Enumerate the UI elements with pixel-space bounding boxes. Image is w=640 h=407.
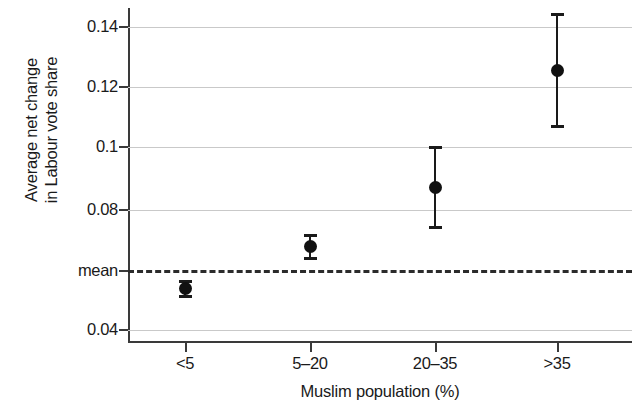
y-axis-line — [128, 8, 130, 343]
error-bar-cap-upper-3 — [551, 13, 564, 16]
y-tick-mark-0.1 — [119, 146, 128, 148]
gridline-0.1 — [128, 147, 632, 148]
plot-area — [128, 8, 632, 343]
chart-figure: Average net change in Labour vote share … — [0, 0, 640, 407]
x-tick-mark-2 — [435, 343, 437, 352]
y-axis-title-line-1: Average net change — [21, 57, 41, 203]
y-tick-label-0.14: 0.14 — [62, 18, 118, 35]
x-tick-label-1: 5–20 — [250, 355, 370, 372]
x-axis-title: Muslim population (%) — [128, 382, 632, 401]
mean-reference-line — [128, 270, 632, 273]
mean-line-label: mean — [62, 262, 118, 279]
x-tick-mark-1 — [310, 343, 312, 352]
gridline-0.04 — [128, 330, 632, 331]
error-bar-cap-upper-2 — [429, 146, 442, 149]
error-bar-cap-upper-1 — [304, 234, 317, 237]
x-tick-mark-3 — [557, 343, 559, 352]
x-tick-mark-0 — [185, 343, 187, 352]
y-tick-mark-0.12 — [119, 86, 128, 88]
y-axis-title-text: Average net change in Labour vote share — [21, 57, 61, 203]
data-marker-1 — [304, 240, 317, 253]
x-tick-label-2: 20–35 — [375, 355, 495, 372]
y-tick-mark-0.08 — [119, 209, 128, 211]
y-tick-mark-mean — [119, 270, 128, 272]
y-tick-label-0.04: 0.04 — [62, 321, 118, 338]
y-tick-label-0.12: 0.12 — [62, 78, 118, 95]
y-tick-label-0.08: 0.08 — [62, 201, 118, 218]
gridline-0.08 — [128, 210, 632, 211]
data-marker-3 — [551, 64, 564, 77]
data-marker-2 — [429, 181, 442, 194]
x-tick-label-0: <5 — [125, 355, 245, 372]
y-tick-label-0.1: 0.1 — [62, 138, 118, 155]
y-tick-mark-0.14 — [119, 26, 128, 28]
error-bar-cap-lower-0 — [179, 295, 192, 298]
y-axis-tick-labels: 0.14 0.12 0.1 0.08 mean 0.04 — [56, 0, 118, 407]
error-bar-cap-lower-3 — [551, 125, 564, 128]
error-bar-cap-lower-2 — [429, 226, 442, 229]
error-bar-cap-lower-1 — [304, 257, 317, 260]
y-tick-mark-0.04 — [119, 329, 128, 331]
x-tick-label-3: >35 — [497, 355, 617, 372]
data-marker-0 — [179, 282, 192, 295]
